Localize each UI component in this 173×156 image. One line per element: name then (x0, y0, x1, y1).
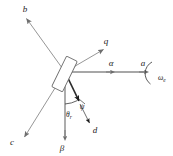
axis-label-d: d (93, 125, 98, 135)
axis-label-b: b (23, 4, 28, 14)
angle-arc-theta-r (65, 101, 78, 105)
speed-arc-omega-e (145, 62, 152, 84)
speed-label-omega-e: ωe (158, 73, 166, 83)
vector-diagram: b c α a β q d θr ψ (0, 0, 173, 156)
omega-subscript: e (163, 77, 166, 83)
axis-label-c: c (10, 137, 14, 147)
axis-label-q: q (104, 36, 109, 46)
rotor-body (52, 56, 78, 92)
axis-label-a: a (141, 58, 146, 68)
axis-label-alpha: α (109, 58, 114, 68)
axis-line-b (27, 19, 66, 73)
angle-label-psi: ψ (80, 102, 85, 111)
axis-label-beta: β (59, 143, 65, 153)
angle-label-theta-r: θr (66, 110, 73, 120)
vector-diagram-canvas: b c α a β q d θr ψ (0, 0, 173, 156)
theta-subscript: r (70, 114, 73, 120)
